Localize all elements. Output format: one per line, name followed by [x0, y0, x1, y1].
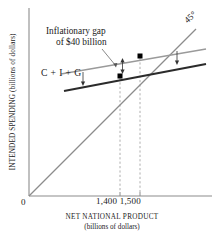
spending-line-higher	[61, 49, 206, 74]
gap-arrow-head-up	[120, 58, 124, 62]
x-axis-subtitle: (billions of dollars)	[24, 224, 200, 232]
gap-arrow-head-down	[120, 70, 124, 74]
inflationary-gap-label-line1: Inflationary gap	[46, 27, 106, 37]
spending-line-cig	[64, 64, 206, 91]
annotation-leader-line	[102, 49, 116, 66]
right-shift-arrow-head	[175, 60, 179, 65]
origin-label: 0	[21, 198, 26, 207]
equilibrium-point-1500	[138, 54, 143, 59]
x-axis-title: NET NATIONAL PRODUCT	[24, 214, 200, 222]
inflationary-gap-label-line2: of $40 billion	[56, 38, 107, 48]
equilibrium-point-1400	[118, 74, 123, 79]
cig-line-label: C + I + G	[41, 68, 82, 78]
forty-five-degree-line	[29, 29, 196, 196]
x-tick-labels: 1,400 1,500	[96, 197, 141, 206]
left-shift-arrow-head	[81, 81, 85, 86]
inflationary-gap-chart: INTENDED SPENDING (billions of dollars) …	[0, 0, 224, 242]
y-axis-title: INTENDED SPENDING (billions of dollars)	[10, 22, 18, 182]
